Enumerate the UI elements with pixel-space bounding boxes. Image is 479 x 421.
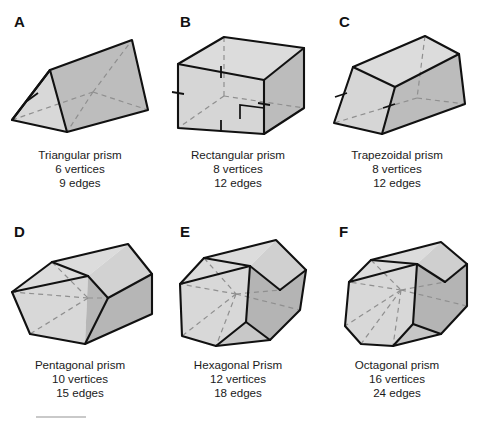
shape-name: Trapezoidal prism bbox=[317, 148, 477, 162]
panel-trapezoidal-prism: C bbox=[317, 0, 477, 210]
panel-hexagonal-prism: E bbox=[158, 210, 318, 421]
shape-name: Rectangular prism bbox=[158, 148, 318, 162]
panel-octagonal-prism: F bbox=[317, 210, 477, 421]
prisms-figure-sheet: A bbox=[0, 0, 479, 421]
pentagonal-prism-drawing bbox=[0, 232, 160, 360]
edge-count: 12 edges bbox=[158, 176, 318, 190]
caption-octagonal-prism: Octagonal prism 16 vertices 24 edges bbox=[317, 358, 477, 400]
caption-hexagonal-prism: Hexagonal Prism 12 vertices 18 edges bbox=[158, 358, 318, 400]
panel-rectangular-prism: B bbox=[158, 0, 318, 210]
edge-count: 24 edges bbox=[317, 386, 477, 400]
panel-pentagonal-prism: D bbox=[0, 210, 160, 421]
edge-count: 12 edges bbox=[317, 176, 477, 190]
vertex-count: 6 vertices bbox=[0, 162, 160, 176]
shape-name: Pentagonal prism bbox=[0, 358, 160, 372]
hexagonal-prism-drawing bbox=[158, 232, 318, 360]
edge-count: 9 edges bbox=[0, 176, 160, 190]
footer-rule bbox=[36, 416, 86, 418]
caption-pentagonal-prism: Pentagonal prism 10 vertices 15 edges bbox=[0, 358, 160, 400]
caption-triangular-prism: Triangular prism 6 vertices 9 edges bbox=[0, 148, 160, 190]
caption-trapezoidal-prism: Trapezoidal prism 8 vertices 12 edges bbox=[317, 148, 477, 190]
vertex-count: 16 vertices bbox=[317, 372, 477, 386]
vertex-count: 8 vertices bbox=[158, 162, 318, 176]
edge-count: 15 edges bbox=[0, 386, 160, 400]
octagonal-prism-drawing bbox=[317, 232, 477, 360]
vertex-count: 12 vertices bbox=[158, 372, 318, 386]
vertex-count: 10 vertices bbox=[0, 372, 160, 386]
shape-name: Hexagonal Prism bbox=[158, 358, 318, 372]
panel-triangular-prism: A bbox=[0, 0, 160, 210]
shape-name: Octagonal prism bbox=[317, 358, 477, 372]
edge-count: 18 edges bbox=[158, 386, 318, 400]
triangular-prism-drawing bbox=[0, 22, 160, 150]
caption-rectangular-prism: Rectangular prism 8 vertices 12 edges bbox=[158, 148, 318, 190]
shape-name: Triangular prism bbox=[0, 148, 160, 162]
rectangular-prism-drawing bbox=[158, 22, 318, 150]
trapezoidal-prism-drawing bbox=[317, 22, 477, 150]
vertex-count: 8 vertices bbox=[317, 162, 477, 176]
